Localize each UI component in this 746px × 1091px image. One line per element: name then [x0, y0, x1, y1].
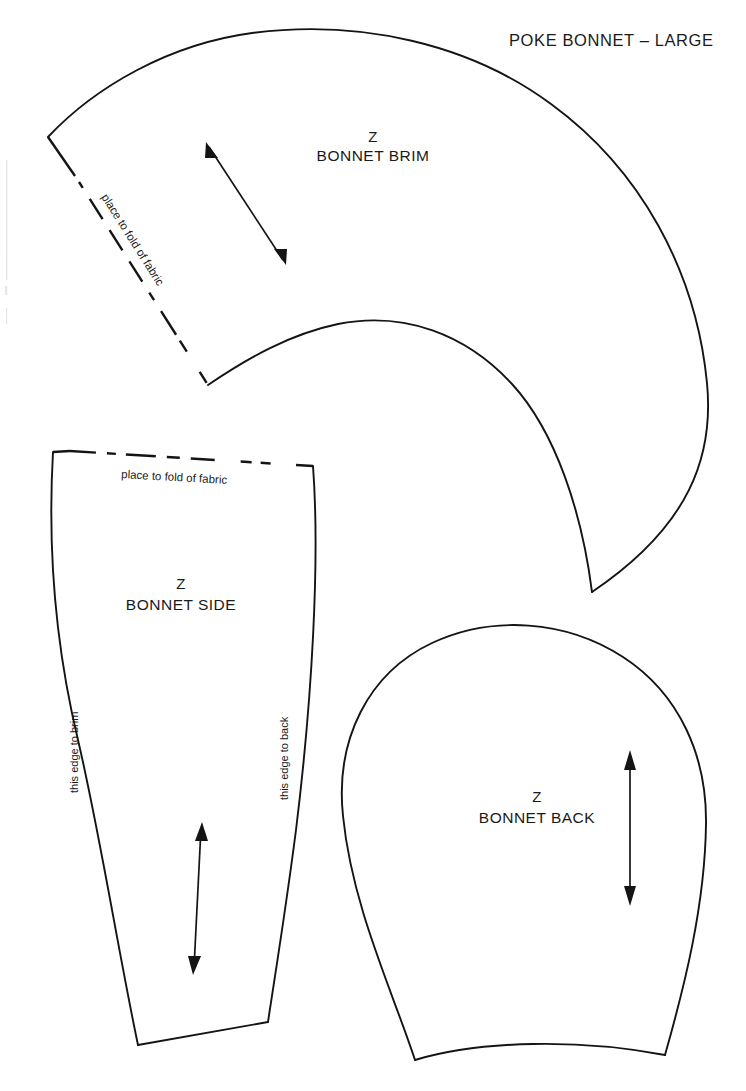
- brim-grainline-arrowhead-bottom: [274, 249, 287, 265]
- back-bottom-edge: [415, 1044, 665, 1060]
- brim-fold-line-stub: [48, 137, 75, 176]
- piece-bonnet-side: place to fold of fabric this edge to bri…: [51, 451, 315, 1045]
- back-outline: [342, 625, 706, 1060]
- side-fold-label: place to fold of fabric: [121, 468, 228, 486]
- brim-piece-name: BONNET BRIM: [317, 147, 430, 164]
- pattern-sheet: place to fold of fabric Z BONNET BRIM p: [0, 0, 746, 1091]
- back-piece-code: Z: [532, 788, 542, 805]
- side-fold-line-dashed: [70, 451, 296, 465]
- brim-grainline-arrowhead-top: [205, 142, 218, 158]
- piece-bonnet-brim: place to fold of fabric Z BONNET BRIM: [48, 29, 708, 592]
- brim-fold-label: place to fold of fabric: [99, 192, 166, 288]
- back-grainline-arrowhead-bottom: [624, 886, 636, 906]
- margin-scan-noise: [5, 160, 7, 324]
- side-bottom-edge: [138, 1022, 268, 1045]
- brim-fold-line-dashed: [79, 182, 208, 385]
- side-right-edge-label: this edge to back: [278, 716, 290, 800]
- side-grainline-shaft: [194, 828, 201, 968]
- piece-bonnet-back: Z BONNET BACK: [342, 625, 706, 1060]
- side-piece-code: Z: [176, 575, 186, 592]
- side-top-left-corner-stub: [53, 451, 70, 452]
- pattern-drawing: place to fold of fabric Z BONNET BRIM p: [0, 0, 746, 1091]
- brim-piece-code: Z: [368, 128, 378, 145]
- brim-grainline-shaft: [209, 147, 283, 260]
- side-piece-name: BONNET SIDE: [126, 596, 236, 613]
- brim-inner-edge: [208, 320, 592, 592]
- side-grainline-arrowhead-bottom: [188, 956, 201, 975]
- side-grainline-arrowhead-top: [195, 822, 208, 841]
- back-piece-name: BONNET BACK: [479, 809, 595, 826]
- side-left-edge-to-brim: [51, 452, 138, 1045]
- brim-outer-edge: [48, 29, 708, 592]
- side-left-edge-label: this edge to brim: [68, 712, 80, 793]
- page-title: POKE BONNET – LARGE: [509, 31, 714, 49]
- back-grainline-arrowhead-top: [624, 750, 636, 770]
- side-right-edge-to-back: [268, 466, 316, 1022]
- side-top-right-corner-stub: [296, 465, 313, 466]
